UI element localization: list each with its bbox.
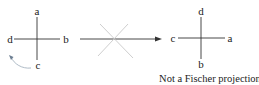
fischer-rotation-diagram: a d b c d c a b Not a Fischer projection bbox=[0, 0, 259, 85]
left-top-label: a bbox=[35, 5, 40, 17]
rotation-arrow-icon bbox=[11, 57, 31, 68]
right-bottom-label: b bbox=[198, 58, 204, 70]
left-right-label: b bbox=[63, 33, 69, 45]
left-bottom-label: c bbox=[36, 59, 41, 71]
crossed-out-arrow bbox=[80, 24, 162, 58]
cross-out-line-1 bbox=[100, 24, 133, 58]
left-left-label: d bbox=[7, 33, 13, 45]
right-top-label: d bbox=[198, 5, 204, 17]
cross-out-line-2 bbox=[98, 24, 128, 56]
left-projection: a d b c bbox=[7, 5, 69, 71]
caption: Not a Fischer projection bbox=[159, 73, 259, 84]
right-projection: d c a b Not a Fischer projection bbox=[159, 5, 259, 84]
rotation-arrowhead-icon bbox=[9, 55, 14, 60]
arrow-head-icon bbox=[155, 37, 162, 42]
right-left-label: c bbox=[171, 32, 176, 44]
right-right-label: a bbox=[228, 32, 233, 44]
